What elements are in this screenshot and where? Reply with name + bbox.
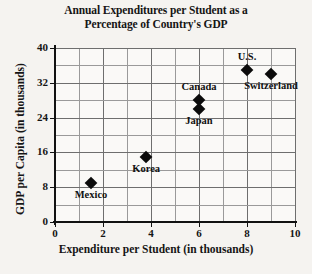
x-axis-tick-label: 2 (88, 227, 118, 239)
chart-title-line-1: Annual Expenditures per Student as a (0, 3, 312, 17)
scatter-chart: Annual Expenditures per Student as a Per… (0, 0, 312, 274)
y-axis-tick (50, 222, 54, 223)
gridline-horizontal (55, 100, 295, 101)
data-point-label: U.S. (238, 51, 257, 62)
data-point-label: Switzerland (244, 80, 298, 91)
chart-title-line-2: Percentage of Country's GDP (0, 17, 312, 31)
gridline-horizontal (55, 135, 295, 136)
y-axis-tick (50, 187, 54, 188)
gridline-horizontal (55, 48, 295, 49)
x-axis-tick-label: 10 (280, 227, 310, 239)
x-axis-title: Expenditure per Student (in thousands) (0, 243, 312, 255)
gridline-horizontal (55, 152, 295, 153)
data-point-label: Mexico (75, 189, 108, 200)
x-axis-tick-label: 8 (232, 227, 262, 239)
y-axis-tick-label: 40 (20, 41, 48, 53)
chart-title: Annual Expenditures per Student as a Per… (0, 3, 312, 31)
x-axis-tick-label: 4 (136, 227, 166, 239)
gridline-horizontal (55, 118, 295, 119)
x-axis-tick-label: 6 (184, 227, 214, 239)
x-axis-line (53, 221, 297, 223)
y-axis-tick-label: 24 (20, 111, 48, 123)
x-axis-tick-label: 0 (40, 227, 70, 239)
y-axis-tick-label: 32 (20, 76, 48, 88)
gridline-vertical (295, 48, 296, 222)
data-point-label: Japan (185, 115, 212, 126)
data-point-label: Canada (181, 81, 216, 92)
y-axis-tick-label: 8 (20, 180, 48, 192)
y-axis-tick (50, 118, 54, 119)
y-axis-tick (50, 48, 54, 49)
y-axis-line (54, 45, 56, 225)
y-axis-tick-label: 16 (20, 145, 48, 157)
y-axis-tick-label: 0 (20, 215, 48, 227)
y-axis-tick (50, 83, 54, 84)
gridline-horizontal (55, 205, 295, 206)
y-axis-tick (50, 152, 54, 153)
gridline-horizontal (55, 65, 295, 66)
gridline-horizontal (55, 170, 295, 171)
data-point-label: Korea (132, 163, 160, 174)
